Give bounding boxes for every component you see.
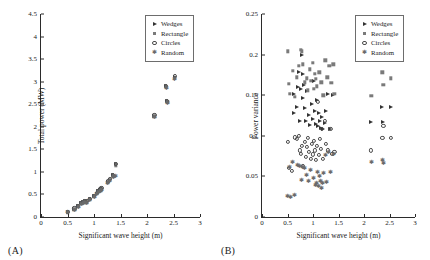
y-tick-mark xyxy=(262,95,265,96)
wedge-marker xyxy=(149,22,160,26)
x-tick-label: 0.5 xyxy=(283,217,292,227)
rectangle-marker xyxy=(287,82,290,85)
y-tick-mark xyxy=(41,81,44,82)
rectangle-marker xyxy=(382,83,385,86)
random-marker xyxy=(164,85,169,90)
circle-marker xyxy=(306,136,310,140)
circle-marker xyxy=(319,147,323,151)
rectangle-marker xyxy=(333,92,336,95)
legend-item: Circles xyxy=(359,38,398,48)
circle-marker xyxy=(313,148,317,152)
rectangle-marker xyxy=(300,50,303,53)
rectangle-marker xyxy=(313,72,316,75)
rectangle-marker xyxy=(326,76,329,79)
legend-item: Random xyxy=(149,48,188,58)
random-marker xyxy=(152,115,157,120)
random-marker xyxy=(331,151,336,156)
rectangle-marker xyxy=(291,69,294,72)
wedge-marker xyxy=(311,117,315,121)
circle-marker xyxy=(305,145,309,149)
circle-marker xyxy=(297,134,301,138)
panel-a: 00.511.522.533.544.5 00.511.522.53 Total… xyxy=(0,0,215,260)
legend-b: WedgesRectangleCirclesRandom xyxy=(355,15,404,62)
x-axis-label-a: Significant wave height (m) xyxy=(79,231,163,240)
wedge-marker xyxy=(308,123,312,127)
legend-label: Circles xyxy=(160,38,180,48)
x-tick-mark xyxy=(147,214,148,217)
random-marker xyxy=(359,50,370,55)
rectangle-marker xyxy=(359,32,370,35)
x-tick-mark xyxy=(68,214,69,217)
y-tick-label: 3.5 xyxy=(28,56,41,63)
legend-label: Wedges xyxy=(160,19,182,29)
wedge-marker xyxy=(369,120,373,124)
random-marker xyxy=(149,50,160,55)
circle-marker xyxy=(381,124,385,128)
rectangle-marker xyxy=(303,81,306,84)
wedge-marker xyxy=(302,83,306,87)
y-tick-label: 4 xyxy=(34,33,42,40)
y-tick-mark xyxy=(262,54,265,55)
rectangle-marker xyxy=(286,50,289,53)
rectangle-marker xyxy=(369,94,372,97)
random-marker xyxy=(99,187,104,192)
y-tick-mark xyxy=(41,194,44,195)
x-tick-mark xyxy=(339,214,340,217)
wedge-marker xyxy=(310,102,314,106)
circle-marker xyxy=(299,152,303,156)
circle-marker xyxy=(314,158,318,162)
circle-marker xyxy=(388,136,392,140)
y-tick-mark xyxy=(262,135,265,136)
rectangle-marker xyxy=(295,76,298,79)
legend-item: Wedges xyxy=(149,19,188,29)
wedge-marker xyxy=(300,53,304,57)
legend-label: Rectangle xyxy=(160,29,188,39)
random-marker xyxy=(304,172,309,177)
wedge-marker xyxy=(298,119,302,123)
x-tick-label: 1.5 xyxy=(334,217,343,227)
legend-item: Rectangle xyxy=(359,29,398,39)
y-axis-label-a: Total power (MW) xyxy=(37,87,46,144)
circle-marker xyxy=(304,155,308,159)
x-tick-label: 3 xyxy=(413,217,417,227)
circle-marker xyxy=(149,41,160,45)
random-marker xyxy=(321,171,326,176)
rectangle-marker xyxy=(297,64,300,67)
x-tick-mark xyxy=(41,214,42,217)
random-marker xyxy=(381,161,386,166)
rectangle-marker xyxy=(330,81,333,84)
y-tick-mark xyxy=(41,149,44,150)
panel-b: 00.050.10.150.20.25 00.511.522.53 Power … xyxy=(215,0,430,260)
figure-container: 00.511.522.533.544.5 00.511.522.53 Total… xyxy=(0,0,430,260)
legend-item: Wedges xyxy=(359,19,398,29)
x-tick-mark xyxy=(121,214,122,217)
circle-marker xyxy=(369,148,373,152)
y-tick-label: 0.5 xyxy=(28,191,41,198)
rectangle-marker xyxy=(381,71,384,74)
legend-item: Circles xyxy=(149,38,188,48)
rectangle-marker xyxy=(305,76,308,79)
wedge-marker xyxy=(301,96,305,100)
legend-item: Rectangle xyxy=(149,29,188,39)
y-tick-mark xyxy=(41,36,44,37)
random-marker xyxy=(113,174,118,179)
circle-marker xyxy=(285,140,289,144)
x-tick-label: 0.5 xyxy=(63,217,72,227)
x-tick-label: 1 xyxy=(92,217,96,227)
x-tick-label: 2.5 xyxy=(169,217,178,227)
rectangle-marker xyxy=(293,95,296,98)
rectangle-marker xyxy=(332,63,335,66)
x-tick-label: 0 xyxy=(260,217,264,227)
rectangle-marker xyxy=(319,81,322,84)
circle-marker xyxy=(316,100,320,104)
x-tick-label: 3 xyxy=(198,217,202,227)
x-axis-label-b: Significant wave height (m) xyxy=(297,231,381,240)
x-tick-label: 1.5 xyxy=(116,217,125,227)
legend-item: Random xyxy=(359,48,398,58)
wedge-marker xyxy=(389,105,393,109)
rectangle-marker xyxy=(149,32,160,35)
x-tick-mark xyxy=(390,214,391,217)
x-tick-label: 0 xyxy=(39,217,43,227)
x-tick-mark xyxy=(313,214,314,217)
rectangle-marker xyxy=(306,89,309,92)
